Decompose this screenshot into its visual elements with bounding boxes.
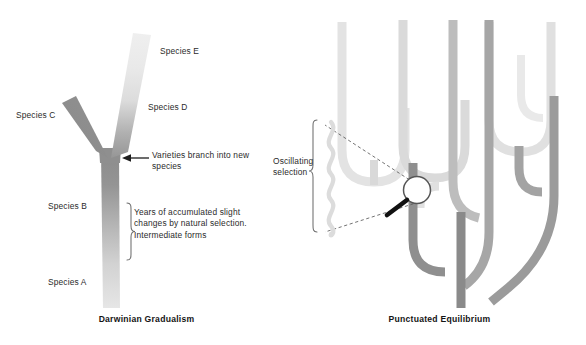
gradualism-trunk-species-a-to-b — [101, 150, 120, 308]
gradualism-branch-species-d-e — [111, 33, 151, 158]
panel-title-darwinian-gradualism: Darwinian Gradualism — [0, 314, 293, 324]
panel-darwinian-gradualism: Species E Species D Species C Species B … — [0, 0, 293, 345]
punctuated-tree-graphic — [293, 0, 586, 345]
label-varieties-branch-note: Varieties branch into new species — [152, 150, 270, 173]
label-species-e: Species E — [160, 46, 199, 57]
label-oscillating-selection: Oscillating selection — [273, 156, 335, 179]
panel-title-punctuated-equilibrium: Punctuated Equilibrium — [293, 314, 586, 324]
gradualism-branch-species-c — [62, 96, 108, 158]
evolution-diagram-figure: Species E Species D Species C Species B … — [0, 0, 586, 345]
label-species-d: Species D — [148, 102, 188, 113]
varieties-arrow-icon — [122, 154, 149, 162]
label-species-c: Species C — [16, 110, 56, 121]
panel-punctuated-equilibrium: Oscillating selection Punctuated Equilib… — [293, 0, 586, 345]
branch-pale-left-u — [342, 22, 405, 182]
branch-faint-right-inner — [521, 55, 543, 118]
label-species-a: Species A — [48, 277, 87, 288]
branch-mid-right-descending — [491, 96, 554, 302]
label-species-b: Species B — [48, 201, 87, 212]
label-years-accumulated-note: Years of accumulated slight changes by n… — [134, 207, 258, 241]
